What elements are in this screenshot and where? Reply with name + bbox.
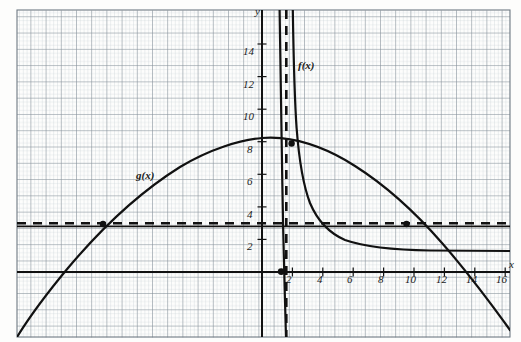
y-axis-label: y — [255, 6, 260, 17]
g-curve-label: g(x) — [136, 170, 154, 181]
point-intersection-lower — [403, 221, 409, 227]
point-intersection-upper — [288, 140, 294, 146]
x-tick-label-6: 6 — [347, 274, 353, 285]
x-tick-label-14: 14 — [466, 274, 477, 285]
x-tick-label-12: 12 — [436, 274, 447, 285]
y-tick-label-12: 12 — [243, 79, 254, 90]
x-tick-label-10: 10 — [405, 274, 416, 285]
y-tick-label-6: 6 — [247, 176, 253, 187]
point-g-crosses-asymptote — [100, 221, 106, 227]
x-tick-label-4: 4 — [317, 274, 323, 285]
graph-figure: y x 2 4 6 8 10 12 14 16 2 4 6 8 10 12 14… — [0, 0, 521, 342]
x-tick-label-16: 16 — [496, 274, 507, 285]
f-curve-label: f(x) — [298, 60, 315, 71]
y-tick-label-4: 4 — [247, 209, 253, 220]
point-f-crosses-x-axis — [278, 268, 285, 275]
x-tick-label-2: 2 — [286, 274, 292, 285]
y-tick-label-14: 14 — [243, 46, 254, 57]
x-axis-label: x — [509, 259, 514, 270]
y-tick-label-8: 8 — [247, 144, 253, 155]
coordinate-plane — [0, 0, 521, 342]
x-tick-label-8: 8 — [378, 274, 384, 285]
y-tick-label-10: 10 — [243, 111, 254, 122]
y-tick-label-2: 2 — [247, 241, 253, 252]
